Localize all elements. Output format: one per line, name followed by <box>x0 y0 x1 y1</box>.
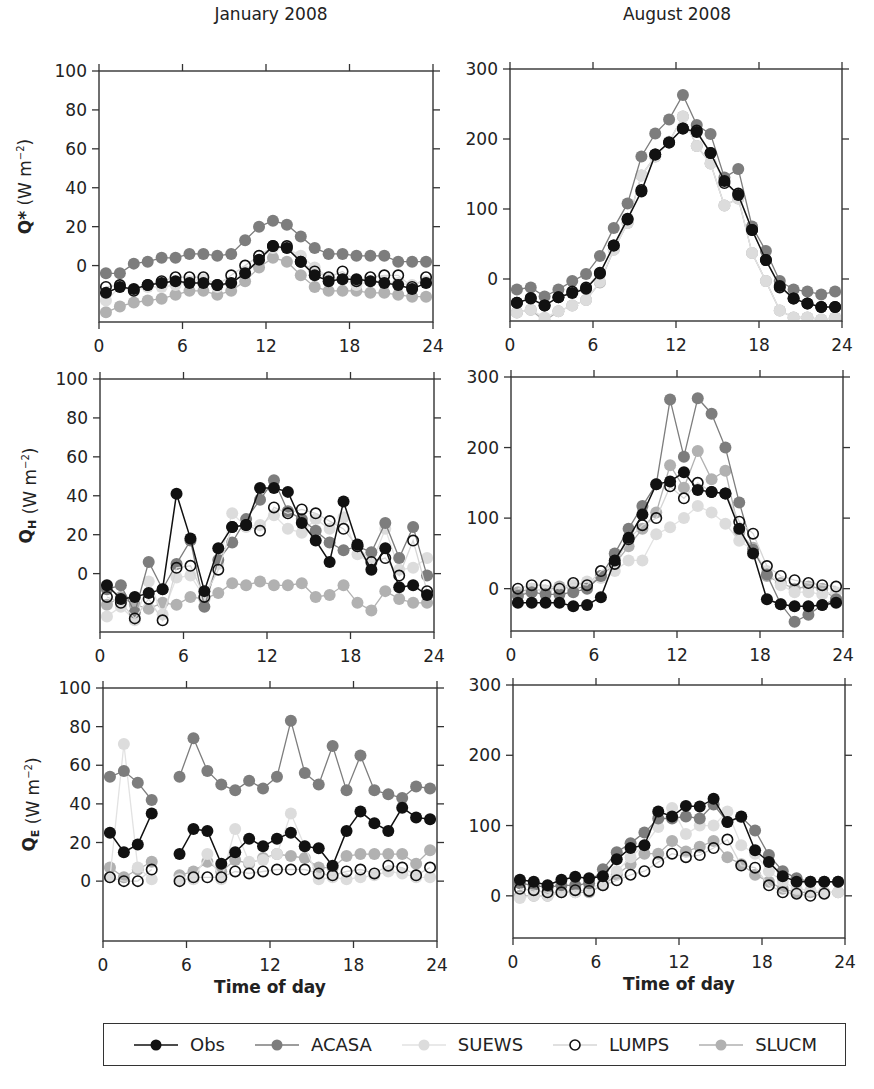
svg-text:24: 24 <box>834 952 856 972</box>
slucm-marker-icon <box>697 1037 745 1053</box>
svg-text:80: 80 <box>69 717 91 737</box>
panel-aug-q-: 061218240100200300 <box>466 59 853 355</box>
svg-text:6: 6 <box>177 336 188 356</box>
svg-text:0: 0 <box>95 646 106 666</box>
svg-text:18: 18 <box>339 336 361 356</box>
obs-marker-icon <box>132 1037 180 1053</box>
svg-text:18: 18 <box>749 645 771 665</box>
svg-text:24: 24 <box>832 645 854 665</box>
svg-text:40: 40 <box>65 178 87 198</box>
svg-text:12: 12 <box>668 952 690 972</box>
svg-text:Q* (W m−2): Q* (W m−2) <box>15 139 35 235</box>
svg-text:Time of day: Time of day <box>214 977 326 997</box>
svg-text:100: 100 <box>59 678 91 698</box>
svg-text:0: 0 <box>98 955 109 975</box>
svg-text:12: 12 <box>666 645 688 665</box>
svg-text:20: 20 <box>66 525 88 545</box>
legend-item-lumps: LUMPS <box>551 1034 669 1055</box>
svg-text:12: 12 <box>256 646 278 666</box>
svg-text:QE (W m−2): QE (W m−2) <box>19 757 43 851</box>
panel-jan-qe: 06121824020406080100QE (W m−2)Time of da… <box>19 678 448 997</box>
svg-text:6: 6 <box>589 645 600 665</box>
svg-text:0: 0 <box>488 579 499 599</box>
svg-text:100: 100 <box>55 61 87 81</box>
svg-text:100: 100 <box>466 199 498 219</box>
svg-text:40: 40 <box>69 794 91 814</box>
svg-text:6: 6 <box>178 646 189 666</box>
svg-text:60: 60 <box>65 139 87 159</box>
panel-jan-q-: 06121824020406080100Q* (W m−2) <box>15 61 444 356</box>
svg-text:20: 20 <box>69 833 91 853</box>
svg-text:0: 0 <box>487 269 498 289</box>
svg-text:0: 0 <box>490 886 501 906</box>
svg-text:6: 6 <box>181 955 192 975</box>
lumps-marker-icon <box>551 1037 599 1053</box>
legend-label: Obs <box>190 1034 225 1055</box>
svg-text:0: 0 <box>505 335 516 355</box>
svg-text:200: 200 <box>467 438 499 458</box>
acasa-marker-icon <box>253 1037 301 1053</box>
svg-text:QH (W m−2): QH (W m−2) <box>16 448 40 544</box>
svg-text:20: 20 <box>65 217 87 237</box>
svg-text:24: 24 <box>426 955 448 975</box>
svg-text:12: 12 <box>665 335 687 355</box>
legend-label: SLUCM <box>755 1034 817 1055</box>
svg-text:6: 6 <box>591 952 602 972</box>
svg-text:300: 300 <box>466 59 498 79</box>
svg-text:18: 18 <box>343 955 365 975</box>
svg-text:60: 60 <box>66 447 88 467</box>
svg-text:300: 300 <box>469 675 501 695</box>
legend-item-acasa: ACASA <box>253 1034 372 1055</box>
suews-marker-icon <box>400 1037 448 1053</box>
panel-jan-qh: 06121824020406080100QH (W m−2) <box>16 369 445 666</box>
svg-text:200: 200 <box>469 745 501 765</box>
legend-item-suews: SUEWS <box>400 1034 523 1055</box>
legend-label: SUEWS <box>458 1034 523 1055</box>
legend-label: ACASA <box>311 1034 372 1055</box>
svg-text:0: 0 <box>77 564 88 584</box>
svg-text:80: 80 <box>66 408 88 428</box>
panel-aug-qh: 061218240100200300 <box>467 367 854 665</box>
legend-item-obs: Obs <box>132 1034 225 1055</box>
svg-text:60: 60 <box>69 755 91 775</box>
svg-text:100: 100 <box>469 816 501 836</box>
svg-text:24: 24 <box>422 336 444 356</box>
plot-grid: 06121824020406080100Q* (W m−2)0612182401… <box>0 0 874 1010</box>
legend-label: LUMPS <box>609 1034 669 1055</box>
svg-text:300: 300 <box>467 367 499 387</box>
svg-text:0: 0 <box>76 256 87 276</box>
svg-text:12: 12 <box>255 336 277 356</box>
svg-text:12: 12 <box>259 955 281 975</box>
svg-text:0: 0 <box>94 336 105 356</box>
legend: Obs ACASA SUEWS LUMPS SLUCM <box>103 1023 846 1066</box>
svg-text:100: 100 <box>56 369 88 389</box>
panel-aug-qe: 061218240100200300Time of day <box>469 675 856 994</box>
svg-text:18: 18 <box>748 335 770 355</box>
svg-text:100: 100 <box>467 508 499 528</box>
svg-text:24: 24 <box>831 335 853 355</box>
svg-text:18: 18 <box>751 952 773 972</box>
svg-text:80: 80 <box>65 100 87 120</box>
svg-text:24: 24 <box>423 646 445 666</box>
svg-text:40: 40 <box>66 486 88 506</box>
svg-text:0: 0 <box>506 645 517 665</box>
svg-text:200: 200 <box>466 129 498 149</box>
figure: January 2008 August 2008 061218240204060… <box>0 0 874 1089</box>
svg-text:Time of day: Time of day <box>623 974 735 994</box>
svg-text:0: 0 <box>80 871 91 891</box>
svg-text:6: 6 <box>588 335 599 355</box>
svg-text:18: 18 <box>340 646 362 666</box>
legend-item-slucm: SLUCM <box>697 1034 817 1055</box>
svg-text:0: 0 <box>508 952 519 972</box>
